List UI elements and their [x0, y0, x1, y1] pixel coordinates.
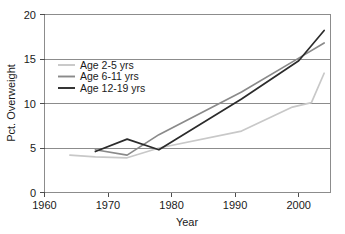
legend-label-3: Age 12-19 yrs [80, 82, 145, 94]
y-tick-label-0: 0 [30, 187, 36, 199]
x-tick-label-1970: 1970 [96, 199, 120, 211]
legend-label-2: Age 6-11 yrs [80, 70, 139, 82]
x-tick-label-2000: 2000 [286, 199, 310, 211]
x-tick-label-1990: 1990 [223, 199, 247, 211]
x-tick-label-1960: 1960 [32, 199, 56, 211]
x-tick-label-1980: 1980 [159, 199, 183, 211]
chart-figure: 20 15 10 5 0 1960 1970 1980 1990 2000 Ye… [0, 0, 345, 234]
y-tick-label-15: 15 [24, 53, 36, 65]
y-axis-title: Pct. Overweight [5, 64, 17, 142]
y-tick-label-5: 5 [30, 142, 36, 154]
y-tick-label-10: 10 [24, 98, 36, 110]
line-chart: 20 15 10 5 0 1960 1970 1980 1990 2000 Ye… [0, 0, 345, 234]
y-tick-label-20: 20 [24, 9, 36, 21]
legend-label-1: Age 2-5 yrs [80, 59, 134, 71]
x-axis-title: Year [176, 216, 199, 228]
